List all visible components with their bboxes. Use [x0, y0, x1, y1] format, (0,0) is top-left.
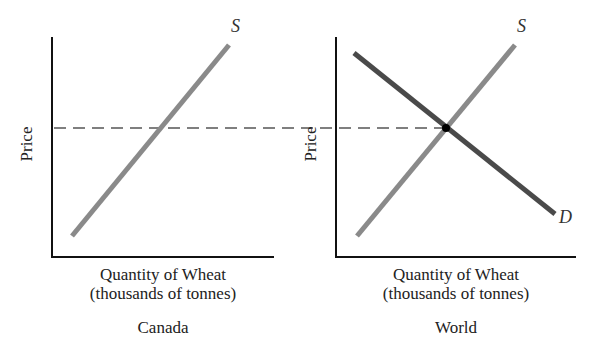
world-supply-label: S — [517, 16, 526, 37]
canada-y-axis-label: Price — [17, 124, 37, 164]
world-demand-label: D — [559, 207, 572, 228]
world-x-label-line2: (thousands of tonnes) — [336, 284, 576, 303]
equilibrium-point — [442, 124, 450, 132]
canada-x-label-line1: Quantity of Wheat — [52, 265, 274, 284]
canada-supply-label: S — [231, 16, 240, 37]
world-x-axis-label: Quantity of Wheat (thousands of tonnes) — [336, 265, 576, 303]
canada-x-label-line2: (thousands of tonnes) — [52, 284, 274, 303]
canada-panel-title: Canada — [52, 318, 274, 337]
canada-supply-curve — [72, 45, 229, 236]
world-y-axis-label: Price — [301, 124, 321, 164]
world-panel-title: World — [336, 318, 576, 337]
world-demand-curve — [354, 53, 555, 214]
canada-x-axis-label: Quantity of Wheat (thousands of tonnes) — [52, 265, 274, 303]
world-x-label-line1: Quantity of Wheat — [336, 265, 576, 284]
